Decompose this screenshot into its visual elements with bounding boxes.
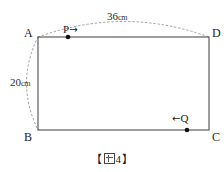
dimension-left-value: 20 (10, 76, 21, 88)
point-q-label: Q (180, 112, 188, 124)
dimension-top-value: 36 (107, 10, 118, 22)
vertex-label-b: B (24, 131, 32, 143)
cjk-missing-glyph-icon (104, 153, 115, 164)
vertex-label-d: D (212, 27, 221, 39)
moving-point-p: P→ (63, 24, 78, 35)
geometry-diagram (0, 0, 224, 172)
vertex-label-c: C (212, 131, 220, 143)
dimension-top-unit: cm (118, 13, 127, 22)
point-p-marker (66, 35, 71, 40)
moving-point-q: ←Q (172, 113, 188, 124)
figure-container: A D B C 36cm 20cm P→ ←Q 【4】 (0, 0, 224, 172)
vertex-label-a: A (24, 27, 33, 39)
point-q-marker (185, 128, 190, 133)
caption-open-bracket: 【 (91, 153, 103, 165)
dimension-left-unit: cm (21, 79, 30, 88)
dimension-label-left: 20cm (10, 77, 30, 88)
figure-caption: 【4】 (0, 150, 224, 166)
caption-close-bracket: 】 (122, 153, 134, 165)
arrow-right-icon: → (69, 24, 77, 35)
dimension-label-top: 36cm (107, 11, 127, 22)
